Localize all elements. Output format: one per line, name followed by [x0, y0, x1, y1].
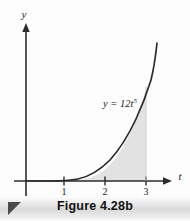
plot-area: 1 2 3 y t y = 12t5	[0, 0, 190, 196]
t-axis-arrowhead	[163, 177, 172, 184]
y-axis-label: y	[21, 8, 27, 20]
tick-label-2: 2	[103, 186, 108, 196]
y-axis-arrowhead	[22, 23, 29, 32]
figure-container: 1 2 3 y t y = 12t5 Figure 4.28b	[0, 0, 190, 221]
equation-exponent: 5	[133, 97, 137, 105]
equation-base: y = 12t	[102, 98, 134, 109]
t-axis-label: t	[178, 170, 182, 182]
tick-label-3: 3	[144, 186, 149, 196]
equation-label: y = 12t5	[102, 97, 137, 109]
graph-svg: 1 2 3 y t y = 12t5	[0, 0, 190, 196]
figure-caption: Figure 4.28b	[0, 199, 190, 213]
tick-label-1: 1	[62, 186, 67, 196]
